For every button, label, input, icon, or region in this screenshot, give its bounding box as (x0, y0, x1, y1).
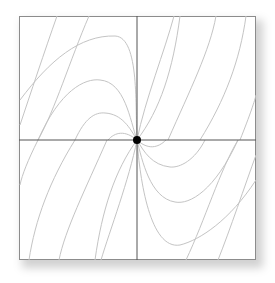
trajectory-curve (186, 140, 238, 260)
trajectory-curve (218, 155, 256, 260)
trajectory-curve (20, 140, 38, 185)
trajectory-curve (108, 133, 137, 140)
equilibrium-point (133, 136, 141, 144)
trajectory-curve (240, 95, 256, 140)
trajectory-curve (137, 140, 166, 147)
trajectory-curve (38, 16, 89, 140)
trajectory-curve (137, 16, 174, 140)
phase-portrait (0, 0, 275, 283)
trajectory-curve (29, 140, 75, 260)
trajectory-curve (137, 140, 205, 167)
trajectory-curve (168, 16, 216, 140)
trajectory-curve (137, 16, 180, 140)
trajectory-curve (20, 36, 137, 140)
trajectory-curve (101, 140, 137, 260)
trajectory-curve (95, 140, 137, 260)
trajectory-curve (75, 113, 137, 140)
trajectory-curve (200, 16, 246, 140)
trajectory-curve (20, 16, 57, 125)
trajectory-curve (137, 140, 256, 245)
trajectory-curve (59, 140, 107, 260)
trajectory-curve (38, 80, 137, 140)
